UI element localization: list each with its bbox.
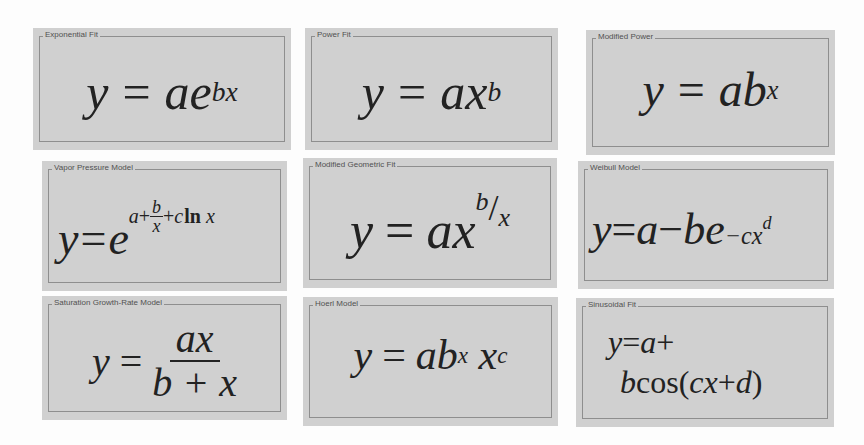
eq-coef: a [165,63,190,121]
eq-b: b [437,331,458,379]
eq-base: e [108,212,128,265]
exp-d: d [763,213,772,233]
eq-exponent: b/x [475,187,510,229]
exp-plus: + [139,205,150,228]
exp-slash: / [488,188,498,228]
power-fit-panel: Power Fit y = axb [305,28,558,150]
eq-a: a [636,204,658,255]
eq-x: x [479,331,498,379]
eq-lhs: y [86,63,108,121]
eq-lhs: y [592,204,612,255]
eq-lhs: y [58,212,78,265]
equation: y = aebx [33,28,291,150]
exp-ln: ln [184,205,201,228]
eq-equals: = [80,212,106,265]
eq-cx: cx [689,364,717,400]
eq-lhs: y [642,62,663,117]
exp-c: c [174,205,183,228]
equation: y=a+ bcos(cx+d) [608,322,762,402]
eq-equals: = [120,338,143,385]
eq-lhs: y [353,331,372,379]
equation-line-1: y=a+ [608,322,762,362]
sinusoidal-fit-panel: Sinusoidal Fit y=a+ bcos(cx+d) [576,298,834,427]
frac-num: b [150,198,163,217]
eq-equals: = [398,63,426,121]
modified-power-panel: Modified Power y = abx [586,30,835,155]
equation: y = ax b + x [42,296,287,420]
equation: y = ax b/x [303,158,557,288]
equation: y=e a+ bx +cln x [42,161,287,291]
eq-exponent: −cxd [725,223,772,236]
eq-close-paren: ) [752,364,763,400]
eq-equals: = [622,324,640,360]
equation-line-2: bcos(cx+d) [608,362,762,402]
eq-lhs: y [362,63,384,121]
vapor-pressure-model-panel: Vapor Pressure Model y=e a+ bx +cln x [42,161,287,291]
eq-base: x [452,201,475,260]
eq-equals: = [122,63,150,121]
eq-a: a [416,331,437,379]
eq-lhs: y [92,338,110,385]
frac-denominator: b + x [152,362,237,404]
eq-b: b [683,204,705,255]
modified-geometric-fit-panel: Modified Geometric Fit y = ax b/x [303,158,557,288]
hoerl-model-panel: Hoerl Model y = abx xc [303,297,558,426]
eq-equals: = [612,204,637,255]
eq-plus: + [718,364,736,400]
panel-title: Sinusoidal Fit [586,300,638,310]
eq-base: b [743,62,767,117]
eq-fraction: ax b + x [152,318,237,404]
eq-coef: a [426,201,452,260]
eq-b: b [620,364,636,400]
frac-numerator: ax [170,318,220,362]
equation: y = abx xc [303,297,558,426]
eq-base: e [190,63,212,121]
exp-den: x [498,203,510,232]
equation: y = abx [586,30,835,155]
exp-a: a [129,205,139,228]
eq-lhs: y [608,324,622,360]
eq-base: e [705,204,725,255]
eq-base: x [465,63,487,121]
exp-x: x [206,205,215,228]
exponential-fit-panel: Exponential Fit y = aebx [33,28,291,150]
eq-equals: = [385,201,414,260]
equation: y=a−be−cxd [578,161,834,289]
eq-equals: = [382,331,406,379]
eq-a: a [640,324,656,360]
exp-cx: −cx [725,221,763,248]
eq-d: d [736,364,752,400]
eq-plus: + [656,324,674,360]
exp-fraction: bx [150,198,163,235]
eq-coef: a [719,62,743,117]
exp-plus: + [163,205,174,228]
weibull-model-panel: Weibull Model y=a−be−cxd [578,161,834,289]
eq-exponent: a+ bx +cln x [129,198,215,235]
eq-lhs: y [350,201,373,260]
frac-den: x [153,217,161,235]
eq-coef: a [440,63,465,121]
eq-equals: = [678,62,705,117]
eq-minus: − [658,204,683,255]
saturation-growth-rate-model-panel: Saturation Growth-Rate Model y = ax b + … [42,296,287,420]
eq-cos: cos( [636,364,689,400]
exp-num: b [475,187,488,216]
equation: y = axb [305,28,558,150]
